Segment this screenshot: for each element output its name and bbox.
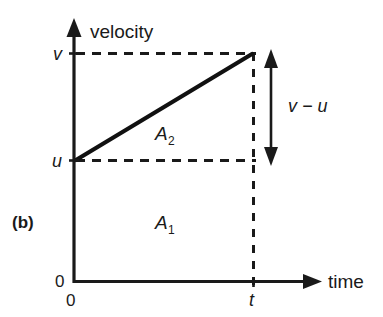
velocity-series-group xyxy=(76,54,252,160)
area-1-label: A xyxy=(154,212,168,233)
velocity-change-label: v − u xyxy=(288,96,328,116)
y-axis-label: velocity xyxy=(90,21,154,42)
x-axis-label: time xyxy=(328,271,364,292)
y-tick-label-v: v xyxy=(53,44,63,64)
panel-label: (b) xyxy=(12,213,34,232)
velocity-time-line xyxy=(76,54,252,160)
x-tick-label-t: t xyxy=(249,290,255,310)
area-1-label-group: A 1 xyxy=(154,212,175,237)
x-origin-label: 0 xyxy=(66,291,75,310)
graph-canvas: velocity time v u 0 0 t A 2 A 1 v − u (b… xyxy=(0,0,383,317)
area-2-label-group: A 2 xyxy=(154,123,175,148)
velocity-change-measure-group xyxy=(264,49,278,166)
area-2-subscript: 2 xyxy=(168,134,175,148)
axes-group xyxy=(67,18,323,289)
area-1-subscript: 1 xyxy=(168,223,175,237)
x-axis-arrow-icon xyxy=(303,274,322,289)
ticks-group xyxy=(69,54,254,288)
area-2-label: A xyxy=(154,123,168,144)
guide-lines-group xyxy=(76,53,256,286)
y-origin-label: 0 xyxy=(55,272,64,291)
y-axis-arrow-icon xyxy=(67,18,82,37)
velocity-time-graph-figure: velocity time v u 0 0 t A 2 A 1 v − u (b… xyxy=(0,0,383,317)
velocity-change-arrow-down-icon xyxy=(264,147,278,166)
y-tick-label-u: u xyxy=(52,151,62,171)
velocity-change-arrow-up-icon xyxy=(264,49,278,68)
